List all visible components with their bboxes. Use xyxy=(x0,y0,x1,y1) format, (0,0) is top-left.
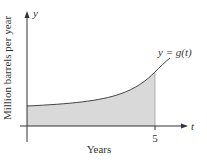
y-axis-title: Million barrels per year xyxy=(1,16,13,120)
function-label: y = g(t) xyxy=(157,46,192,59)
y-axis-symbol: y xyxy=(32,7,38,19)
x-axis-arrow-icon xyxy=(181,124,188,129)
y-axis-arrow-icon xyxy=(25,11,30,18)
x-axis-title: Years xyxy=(87,143,112,155)
x-tick-label: 5 xyxy=(152,132,158,144)
chart: 5 t y y = g(t) Years Million barrels per… xyxy=(0,0,207,162)
shaded-area xyxy=(27,72,155,126)
x-axis-symbol: t xyxy=(191,120,195,132)
